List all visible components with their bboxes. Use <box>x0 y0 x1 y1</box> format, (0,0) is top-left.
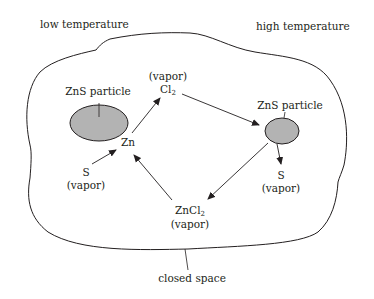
arrow-s-to-zn <box>92 150 116 164</box>
low-temperature-label: low temperature <box>40 18 129 30</box>
arrow-zn-to-cl2 <box>132 98 160 133</box>
zncl2-state-label: (vapor) <box>171 218 209 230</box>
cl2-subscript: 2 <box>171 89 175 97</box>
s-left-state-label: (vapor) <box>67 179 105 191</box>
arrow-zncl2-to-zn <box>134 155 172 200</box>
cl2-label: Cl2 <box>160 83 176 95</box>
zn-label: Zn <box>121 136 135 148</box>
s-right-label: S <box>277 169 284 181</box>
zncl2-base: ZnCl <box>175 204 200 216</box>
zns-particle-left-label: ZnS particle <box>65 85 131 97</box>
arrow-cl2-to-zns <box>182 94 259 125</box>
arrow-zns-to-s <box>277 144 281 164</box>
zns-particle-right-label: ZnS particle <box>257 99 323 111</box>
arrow-zns-to-zncl2 <box>208 143 268 199</box>
zns-particle-right-leader <box>284 112 285 118</box>
diagram-graphics <box>0 0 374 299</box>
s-left-label: S <box>82 166 89 178</box>
diagram-canvas: low temperature high temperature closed … <box>0 0 374 299</box>
s-right-state-label: (vapor) <box>262 182 300 194</box>
cl2-state-label: (vapor) <box>149 70 187 82</box>
zncl2-label: ZnCl2 <box>175 204 205 216</box>
zncl2-subscript: 2 <box>200 210 204 218</box>
zns-particle-right <box>265 118 299 144</box>
cl2-base: Cl <box>160 83 171 95</box>
high-temperature-label: high temperature <box>256 20 350 32</box>
closed-space-leader <box>185 249 188 270</box>
closed-space-label: closed space <box>158 272 226 284</box>
